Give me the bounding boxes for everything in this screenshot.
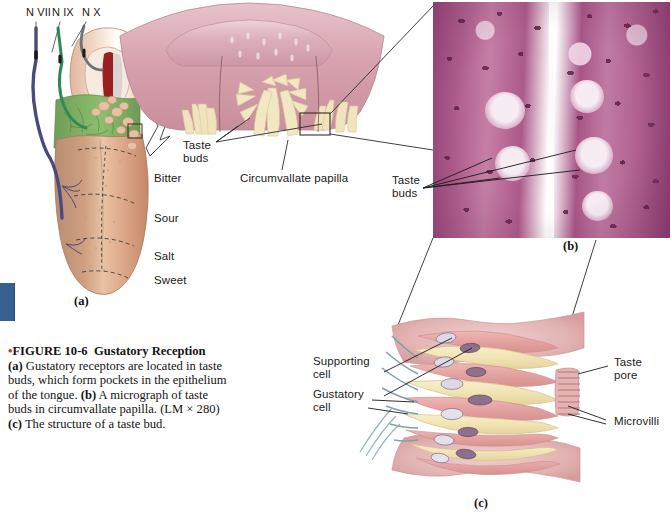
caption-figure-title: Gustatory Reception (94, 344, 206, 358)
caption-c-text: The structure of a taste bud. (22, 417, 166, 431)
caption-figure-number: FIGURE 10-6 (12, 344, 87, 358)
caption-a-tag: (a) (8, 359, 23, 373)
microvilli-label: Microvilli (614, 415, 659, 428)
figure-gustatory-reception: N VII N IX N X Bitter Sour Salt Sweet Ta… (0, 0, 671, 518)
panel-letter-c: (c) (474, 496, 488, 511)
micrograph-taste-buds-label: Taste buds (392, 174, 420, 199)
gustatory-cell-label: Gustatory cell (313, 388, 364, 413)
nucleus-gustatory-2 (466, 367, 486, 376)
nucleus-gustatory-3 (468, 395, 492, 405)
nucleus-gustatory-4 (458, 427, 478, 436)
papilla-taste-buds-label: Taste buds (183, 139, 211, 164)
nerve-ix-label: N IX (52, 6, 74, 19)
caption-b-tag: (b) (81, 388, 96, 402)
taste-bud-structure-illustration (360, 312, 584, 482)
circumvallate-papilla-illustration (120, 3, 384, 136)
taste-region-sour-label: Sour (154, 212, 179, 225)
nerve-fiber-bundle (360, 408, 400, 460)
nerve-x-label: N X (82, 6, 101, 19)
taste-region-salt-label: Salt (154, 250, 174, 263)
taste-region-sweet-label: Sweet (154, 274, 186, 287)
circumvallate-papilla-label: Circumvallate papilla (240, 172, 348, 185)
caption-c-tag: (c) (8, 417, 22, 431)
micrograph-label-leaders (423, 150, 580, 188)
nerve-vii-label: N VII (26, 6, 51, 19)
nucleus-supporting-3 (441, 379, 463, 390)
illustration-layer (0, 0, 671, 518)
supporting-cell-label: Supporting cell (313, 355, 370, 380)
taste-region-bitter-label: Bitter (154, 172, 181, 185)
figure-caption: •FIGURE 10-6 Gustatory Reception(a) Gust… (8, 344, 232, 432)
vocal-fold (113, 54, 123, 99)
panel-letter-a: (a) (74, 294, 89, 309)
panel-letter-b: (b) (563, 239, 578, 254)
nucleus-supporting-4 (441, 408, 463, 419)
taste-pore-label: Taste pore (614, 356, 642, 381)
